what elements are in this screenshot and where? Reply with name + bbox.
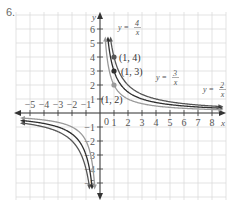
x-tick-label: 3 xyxy=(140,117,145,128)
x-tick-label: 4 xyxy=(154,117,159,128)
y-tick-label: 4 xyxy=(90,52,95,63)
point-label: (1, 4) xyxy=(119,52,141,64)
x-tick-label: 1 xyxy=(112,117,117,128)
x-tick-label: 8 xyxy=(210,117,215,128)
x-tick-label: −2 xyxy=(67,99,78,110)
x-tick-label: 7 xyxy=(196,117,201,128)
data-point xyxy=(111,68,116,73)
x-tick-label: 2 xyxy=(126,117,131,128)
y-tick-label: 5 xyxy=(90,38,95,49)
curve-left-branch xyxy=(23,121,92,187)
equation-denominator: x xyxy=(220,90,225,99)
equation-prefix: y = xyxy=(155,73,167,82)
point-label: (1, 2) xyxy=(101,94,123,106)
y-tick-label: 1 xyxy=(90,94,95,105)
ticks: −5−4−3−2−112345678654321−1−2−3−4−50yx xyxy=(25,12,225,189)
x-tick-label: −4 xyxy=(39,99,50,110)
x-axis-left-arrow-icon xyxy=(14,110,21,116)
equation-denominator: x xyxy=(173,78,178,87)
y-tick-label: 2 xyxy=(90,80,95,91)
y-tick-label: 6 xyxy=(90,24,95,35)
data-point xyxy=(111,54,116,59)
origin-label: 0 xyxy=(104,116,109,127)
equation-label: y =2x xyxy=(202,81,226,99)
equation-denominator: x xyxy=(135,28,140,37)
equation-numerator: 4 xyxy=(135,19,139,28)
data-point xyxy=(111,82,116,87)
y-tick-label: −1 xyxy=(84,122,95,133)
equation-label: y =3x xyxy=(155,69,179,87)
x-tick-label: −3 xyxy=(53,99,64,110)
x-tick-label: 5 xyxy=(168,117,173,128)
equation-label: y =4x xyxy=(117,19,141,37)
x-tick-label: 6 xyxy=(182,117,187,128)
equation-numerator: 2 xyxy=(220,81,224,90)
curve-arrow-up-icon xyxy=(103,37,107,42)
x-axis-label: x xyxy=(220,118,225,128)
equation-numerator: 3 xyxy=(172,69,177,78)
hyperbola-graph: −5−4−3−2−112345678654321−1−2−3−4−50yx (1… xyxy=(0,0,230,204)
equation-prefix: y = xyxy=(117,23,129,32)
x-tick-label: −5 xyxy=(25,99,36,110)
y-axis-label: y xyxy=(91,12,96,22)
y-tick-label: 3 xyxy=(90,66,95,77)
y-axis-down-arrow-icon xyxy=(97,193,103,200)
equation-prefix: y = xyxy=(202,85,214,94)
points xyxy=(111,54,116,87)
point-label: (1, 3) xyxy=(121,66,143,78)
y-axis-up-arrow-icon xyxy=(97,12,103,19)
